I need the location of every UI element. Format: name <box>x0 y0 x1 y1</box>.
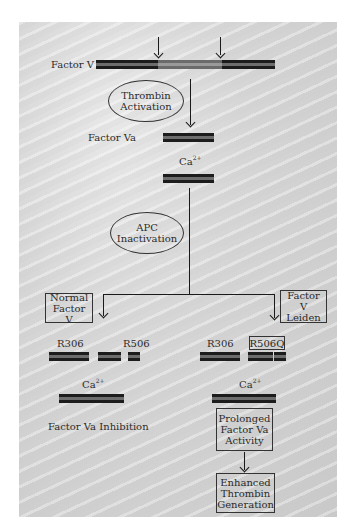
enhanced-line-1: Enhanced <box>217 477 274 488</box>
trunk-line <box>189 188 190 294</box>
left-site-r306: R306 <box>57 338 84 350</box>
thrombin-oval-line-1: Thrombin <box>120 90 171 101</box>
apc-oval-line-2: Inactivation <box>117 233 177 244</box>
apc-inactivation-oval: APCInactivation <box>110 212 184 254</box>
normal-factor-v-box: NormalFactor V <box>45 293 93 323</box>
right-site-r306: R306 <box>207 338 234 350</box>
factor-v-leiden-box: Factor VLeiden <box>280 290 327 323</box>
factor-va-inhibition-label: Factor Va Inhibition <box>48 421 149 433</box>
factor-va-label: Factor Va <box>88 132 136 144</box>
factor-v-bar-left <box>96 60 158 69</box>
thrombin-oval-line-2: Activation <box>120 101 171 112</box>
ca-label-top: Ca2+ <box>179 152 201 168</box>
normal-box-line-1: Normal <box>48 292 90 303</box>
enhanced-line-2: Thrombin <box>217 488 274 499</box>
enhanced-thrombin-box: EnhancedThrombinGeneration <box>216 473 275 513</box>
branch-horizontal-line <box>103 294 275 295</box>
enhanced-line-3: Generation <box>217 499 274 510</box>
thrombin-activation-oval: ThrombinActivation <box>108 80 184 122</box>
ca-label-left: Ca2+ <box>82 375 104 391</box>
right-fragment-1 <box>200 352 240 361</box>
factor-v-bar-right <box>222 60 275 69</box>
prolonged-activity-box: ProlongedFactor VaActivity <box>216 408 273 451</box>
right-recombined-bar <box>212 394 276 403</box>
prolonged-line-1: Prolonged <box>219 413 271 424</box>
factor-v-bar-middle <box>158 60 222 69</box>
r506q-box: R506Q <box>249 336 285 350</box>
apc-oval-line-1: APC <box>117 222 177 233</box>
ca-label-right: Ca2+ <box>239 375 261 391</box>
normal-box-line-2: Factor V <box>48 303 90 325</box>
factor-v-label: Factor V <box>51 59 94 71</box>
leiden-box-line-2: Leiden <box>283 312 324 323</box>
right-fragment-2 <box>248 352 273 361</box>
factor-va-bar <box>163 133 214 142</box>
prolonged-line-3: Activity <box>219 435 271 446</box>
left-recombined-bar <box>59 394 124 403</box>
left-fragment-1 <box>49 352 89 361</box>
left-fragment-2 <box>98 352 121 361</box>
right-site-r506q: R506Q <box>250 338 285 349</box>
leiden-box-line-1: Factor V <box>283 290 324 312</box>
left-fragment-3 <box>128 352 140 361</box>
left-site-r506: R506 <box>123 338 150 350</box>
right-fragment-3 <box>274 352 286 361</box>
factor-va-bound-bar <box>163 174 214 183</box>
prolonged-line-2: Factor Va <box>219 424 271 435</box>
